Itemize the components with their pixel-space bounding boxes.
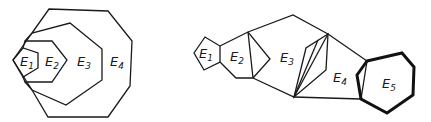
- label-e3-right: E3: [280, 50, 294, 67]
- label-e2-left: E2: [45, 54, 59, 71]
- label-e4-left: E4: [110, 54, 124, 71]
- label-e1-right: E1: [199, 46, 213, 63]
- label-e1-left: E1: [20, 54, 34, 71]
- label-e3-left: E3: [77, 54, 91, 71]
- label-e4-right: E4: [333, 70, 347, 87]
- label-e5-right: E5: [382, 76, 396, 93]
- polygon-e2-right: [220, 32, 270, 78]
- right-chain-diagram: E1 E2 E3 E4 E5: [194, 15, 414, 113]
- edge-e2-diagonal: [248, 32, 253, 78]
- label-e2-right: E2: [230, 49, 244, 66]
- diagram-canvas: E1 E2 E3 E4 E1 E2 E3 E4 E5: [0, 0, 431, 122]
- left-nested-diagram: E1 E2 E3 E4: [13, 9, 132, 117]
- fan-line-1: [294, 34, 328, 97]
